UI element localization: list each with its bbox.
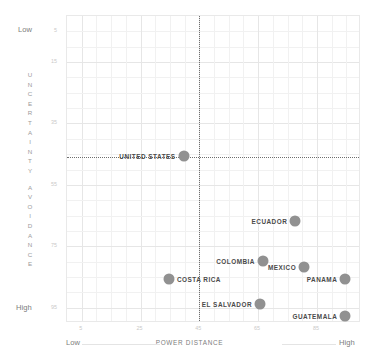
grid-line-horizontal [67, 62, 359, 63]
data-point-label: MEXICO [268, 263, 296, 270]
data-point-label: EL SALVADOR [202, 300, 252, 307]
data-point-marker[interactable] [340, 274, 351, 285]
x-axis-tick-label: 65 [254, 325, 260, 331]
scatter-plot-figure: Low High UNCERTAINTYAVOIDANCE Low High P… [0, 0, 379, 364]
y-axis-title-letter: C [24, 89, 36, 99]
y-axis-title-gap [24, 176, 36, 183]
grid-line-horizontal [67, 262, 359, 263]
data-point-marker[interactable] [178, 151, 189, 162]
y-axis-title-letter: C [24, 250, 36, 260]
y-axis-low-label: Low [18, 25, 32, 34]
y-axis-tick-label: 95 [41, 304, 57, 310]
data-point-label: PANAMA [307, 276, 338, 283]
grid-line-vertical [258, 16, 259, 321]
x-axis-tick-label: 45 [195, 325, 201, 331]
data-point-marker[interactable] [340, 310, 351, 321]
grid-line-horizontal [67, 123, 359, 124]
data-point-marker[interactable] [257, 255, 268, 266]
grid-line-horizontal [67, 108, 359, 109]
quadrant-divider-horizontal [67, 157, 359, 158]
data-point-marker[interactable] [299, 261, 310, 272]
data-point-marker[interactable] [163, 274, 174, 285]
data-point-label: COSTA RICA [177, 276, 221, 283]
grid-line-horizontal [67, 77, 359, 78]
y-axis-title-letter: V [24, 192, 36, 202]
y-axis-high-label: High [16, 303, 32, 312]
grid-line-vertical [126, 16, 127, 321]
y-axis-title-letter: T [24, 118, 36, 128]
y-axis-title-letter: A [24, 128, 36, 138]
grid-line-vertical [302, 16, 303, 321]
grid-line-vertical [243, 16, 244, 321]
y-axis-tick-label: 35 [41, 119, 57, 125]
data-point-label: COLOMBIA [216, 257, 255, 264]
y-axis-title-letter: A [24, 183, 36, 193]
grid-line-horizontal [67, 231, 359, 232]
grid-line-horizontal [67, 200, 359, 201]
y-axis-title-letter: O [24, 202, 36, 212]
y-axis-title-letter: I [24, 211, 36, 221]
y-axis-tick-label: 5 [41, 27, 57, 33]
y-axis-title-letter: E [24, 99, 36, 109]
x-axis-rule-right [282, 344, 336, 345]
y-axis-tick-label: 55 [41, 181, 57, 187]
grid-line-horizontal [67, 93, 359, 94]
x-axis-tick-label: 5 [79, 325, 82, 331]
data-point-label: GUATEMALA [292, 312, 337, 319]
y-axis-title-letter: R [24, 108, 36, 118]
y-axis-tick-label: 75 [41, 242, 57, 248]
y-axis-title-letter: N [24, 80, 36, 90]
y-axis-tick-label: 15 [41, 58, 57, 64]
grid-line-vertical [229, 16, 230, 321]
grid-line-horizontal [67, 216, 359, 217]
grid-line-vertical [288, 16, 289, 321]
grid-line-horizontal [67, 154, 359, 155]
grid-line-horizontal [67, 139, 359, 140]
data-point-label: ECUADOR [252, 217, 288, 224]
y-axis-title-letter: Y [24, 166, 36, 176]
grid-line-vertical [273, 16, 274, 321]
data-point-marker[interactable] [290, 215, 301, 226]
grid-line-horizontal [67, 246, 359, 247]
y-axis-title-letter: E [24, 259, 36, 269]
y-axis-title-letter: N [24, 240, 36, 250]
x-axis-tick-label: 25 [137, 325, 143, 331]
grid-line-horizontal [67, 292, 359, 293]
y-axis-title-letter: D [24, 221, 36, 231]
grid-line-horizontal [67, 170, 359, 171]
y-axis-title-letter: U [24, 70, 36, 80]
x-axis-tick-label: 85 [313, 325, 319, 331]
x-axis-rule-left [82, 344, 160, 345]
y-axis-title: UNCERTAINTYAVOIDANCE [24, 70, 36, 269]
data-point-label: UNITED STATES [119, 153, 175, 160]
y-axis-title-letter: T [24, 156, 36, 166]
y-axis-title-letter: I [24, 137, 36, 147]
grid-line-vertical [141, 16, 142, 321]
y-axis-title-letter: A [24, 231, 36, 241]
grid-line-vertical [155, 16, 156, 321]
grid-line-horizontal [67, 308, 359, 309]
data-point-marker[interactable] [255, 298, 266, 309]
grid-line-horizontal [67, 185, 359, 186]
y-axis-title-letter: N [24, 147, 36, 157]
